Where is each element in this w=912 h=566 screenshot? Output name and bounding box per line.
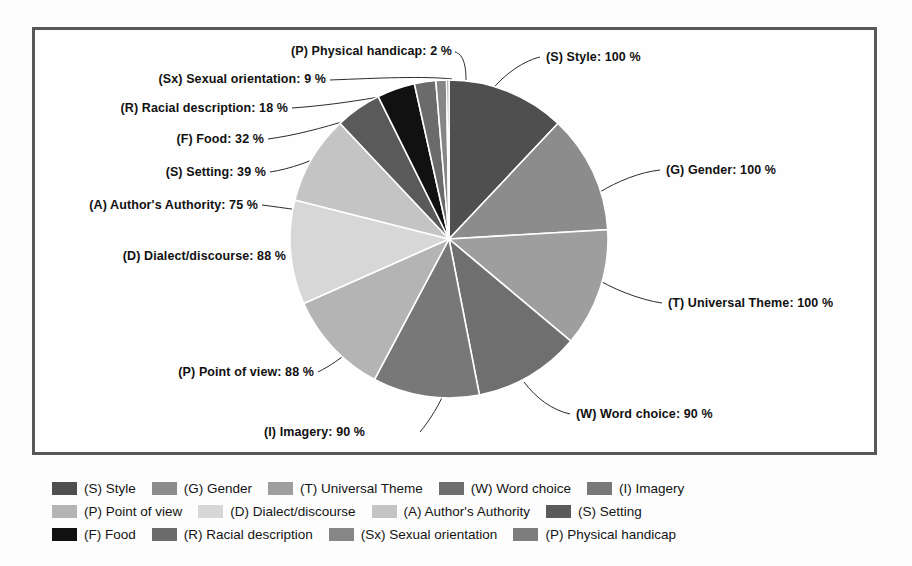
legend-swatch	[329, 528, 354, 541]
legend-item[interactable]: (W) Word choice	[439, 481, 571, 496]
legend-item[interactable]: (S) Style	[52, 481, 136, 496]
legend-label: (S) Style	[84, 481, 136, 496]
callout-physical-handicap: (P) Physical handicap: 2 %	[200, 44, 452, 58]
callout-racial-description: (R) Racial description: 18 %	[60, 101, 288, 115]
legend-label: (Sx) Sexual orientation	[361, 527, 498, 542]
legend-label: (P) Point of view	[84, 504, 182, 519]
legend-row: (P) Point of view(D) Dialect/discourse(A…	[52, 501, 872, 522]
legend-label: (D) Dialect/discourse	[230, 504, 355, 519]
callout-sexual-orientation: (Sx) Sexual orientation: 9 %	[78, 72, 326, 86]
legend-label: (P) Physical handicap	[545, 527, 676, 542]
pie-slice-group	[290, 80, 608, 398]
legend-label: (S) Setting	[578, 504, 642, 519]
legend-swatch	[152, 528, 177, 541]
callout-dialect-discourse: (D) Dialect/discourse: 88 %	[40, 249, 286, 263]
legend-label: (T) Universal Theme	[300, 481, 423, 496]
legend-label: (A) Author's Authority	[404, 504, 530, 519]
legend-swatch	[198, 505, 223, 518]
callout-setting: (S) Setting: 39 %	[70, 165, 266, 179]
legend-item[interactable]: (T) Universal Theme	[268, 481, 423, 496]
callout-authors-authority: (A) Author's Authority: 75 %	[40, 198, 258, 212]
legend-swatch	[513, 528, 538, 541]
legend-item[interactable]: (I) Imagery	[587, 481, 684, 496]
legend-label: (W) Word choice	[471, 481, 571, 496]
legend-swatch	[52, 505, 77, 518]
legend-item[interactable]: (Sx) Sexual orientation	[329, 527, 498, 542]
callout-style: (S) Style: 100 %	[546, 50, 641, 64]
callout-word-choice: (W) Word choice: 90 %	[576, 407, 713, 421]
legend-label: (F) Food	[84, 527, 136, 542]
callout-imagery: (I) Imagery: 90 %	[264, 425, 365, 439]
legend-item[interactable]: (G) Gender	[152, 481, 252, 496]
callout-point-of-view: (P) Point of view: 88 %	[118, 365, 314, 379]
chart-page: (S) Style: 100 % (G) Gender: 100 % (T) U…	[0, 0, 912, 566]
legend-item[interactable]: (P) Point of view	[52, 504, 182, 519]
legend-swatch	[546, 505, 571, 518]
legend-item[interactable]: (S) Setting	[546, 504, 642, 519]
legend-swatch	[52, 482, 77, 495]
legend-item[interactable]: (R) Racial description	[152, 527, 313, 542]
legend-swatch	[152, 482, 177, 495]
legend-swatch	[52, 528, 77, 541]
legend-item[interactable]: (P) Physical handicap	[513, 527, 676, 542]
legend-item[interactable]: (A) Author's Authority	[372, 504, 530, 519]
callout-universal-theme: (T) Universal Theme: 100 %	[668, 296, 833, 310]
legend-label: (G) Gender	[184, 481, 252, 496]
legend-item[interactable]: (D) Dialect/discourse	[198, 504, 355, 519]
legend-row: (S) Style(G) Gender(T) Universal Theme(W…	[52, 478, 872, 499]
legend-label: (R) Racial description	[184, 527, 313, 542]
legend-swatch	[439, 482, 464, 495]
legend-swatch	[587, 482, 612, 495]
legend-item[interactable]: (F) Food	[52, 527, 136, 542]
callout-gender: (G) Gender: 100 %	[666, 163, 776, 177]
callout-food: (F) Food: 32 %	[70, 132, 264, 146]
pie-svg	[288, 78, 610, 400]
legend-swatch	[268, 482, 293, 495]
pie-chart	[288, 78, 610, 400]
legend-row: (F) Food(R) Racial description(Sx) Sexua…	[52, 524, 872, 545]
legend-label: (I) Imagery	[619, 481, 684, 496]
legend: (S) Style(G) Gender(T) Universal Theme(W…	[52, 478, 872, 548]
legend-swatch	[372, 505, 397, 518]
